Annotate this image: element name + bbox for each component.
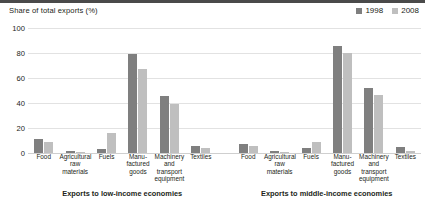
bar-pair (154, 18, 185, 153)
bar-group (59, 18, 90, 153)
x-tick-label: Machineryandtransportequipment (358, 153, 389, 183)
bar-pair (358, 18, 389, 153)
bar-2008 (343, 53, 352, 153)
bar-group (358, 18, 389, 153)
x-tick-label-line: and (154, 160, 185, 167)
x-tick-label: Textiles (185, 153, 216, 160)
bar-pair (122, 18, 153, 153)
x-tick-label: Food (233, 153, 264, 160)
x-tick-label-line: Fuels (91, 153, 122, 160)
bar-group (233, 18, 264, 153)
legend-label-2008: 2008 (401, 6, 419, 15)
bar-group (390, 18, 421, 153)
legend: 1998 2008 (356, 6, 419, 15)
bar-2008 (107, 133, 116, 153)
x-tick-label: Food (28, 153, 59, 160)
bars-layer (28, 18, 421, 153)
bar-1998 (34, 139, 43, 153)
chart-page: Share of total exports (%) 1998 2008 100… (0, 0, 425, 205)
bar-2008 (44, 142, 53, 153)
bar-2008 (138, 69, 147, 153)
x-tick-label: Agriculturalrawmaterials (59, 153, 90, 175)
bar-pair (327, 18, 358, 153)
bar-group (185, 18, 216, 153)
bar-pair (264, 18, 295, 153)
bar-1998 (333, 46, 342, 154)
y-tick-40: 40 (17, 99, 25, 108)
y-tick-20: 20 (17, 124, 25, 133)
x-tick-label-line: Machinery (358, 153, 389, 160)
bar-pair (28, 18, 59, 153)
x-tick-label-line: Manu- (122, 153, 153, 160)
x-tick-label-line: materials (264, 168, 295, 175)
bar-group (264, 18, 295, 153)
x-tick-label-line: goods (327, 168, 358, 175)
x-tick-label-line: raw (264, 160, 295, 167)
bar-2008 (374, 95, 383, 153)
x-tick-label: Agriculturalrawmaterials (264, 153, 295, 175)
bar-1998 (160, 96, 169, 154)
bar-group (327, 18, 358, 153)
x-tick-label-line: Fuels (295, 153, 326, 160)
legend-swatch-2008-icon (392, 8, 398, 14)
x-tick-label-line: Food (233, 153, 264, 160)
x-tick-label-line: materials (59, 168, 90, 175)
bar-1998 (128, 54, 137, 153)
x-tick-label-line: Machinery (154, 153, 185, 160)
y-axis-tick-labels: 100806040200 (0, 18, 28, 153)
bar-group (122, 18, 153, 153)
bar-group (28, 18, 59, 153)
bar-pair (91, 18, 122, 153)
x-tick-label-line: Textiles (390, 153, 421, 160)
bar-2008 (312, 142, 321, 153)
y-axis-title: Share of total exports (%) (9, 6, 98, 15)
bar-2008 (249, 146, 258, 153)
plot-area: 100806040200 (0, 18, 425, 153)
bar-pair (295, 18, 326, 153)
x-tick-label: Machineryandtransportequipment (154, 153, 185, 183)
bar-pair (233, 18, 264, 153)
x-tick-label-line: Agricultural (264, 153, 295, 160)
x-tick-label-line: Agricultural (59, 153, 90, 160)
bar-1998 (239, 144, 248, 153)
bar-1998 (191, 146, 200, 154)
x-tick-label-line: Food (28, 153, 59, 160)
x-tick-label-line: raw (59, 160, 90, 167)
legend-item-1998: 1998 (356, 6, 383, 15)
legend-label-1998: 1998 (365, 6, 383, 15)
group-title-low-income: Exports to low-income economies (28, 189, 217, 198)
x-tick-label: Textiles (390, 153, 421, 160)
x-tick-label-line: equipment (154, 175, 185, 182)
x-tick-label-line: Manu- (327, 153, 358, 160)
top-edge-strip-highlight (0, 3, 425, 4)
y-tick-60: 60 (17, 74, 25, 83)
y-tick-80: 80 (17, 49, 25, 58)
x-tick-label-line: factured (122, 160, 153, 167)
x-tick-label-line: goods (122, 168, 153, 175)
legend-item-2008: 2008 (392, 6, 419, 15)
legend-swatch-1998-icon (356, 8, 362, 14)
x-tick-label-line: equipment (358, 175, 389, 182)
bar-group (295, 18, 326, 153)
x-tick-label-line: factured (327, 160, 358, 167)
group-title-middle-income: Exports to middle-income economies (233, 189, 422, 198)
x-tick-label-line: transport (358, 168, 389, 175)
x-axis-category-labels: FoodAgriculturalrawmaterialsFuelsManu-fa… (28, 153, 421, 187)
bar-pair (390, 18, 421, 153)
bar-group (154, 18, 185, 153)
bar-pair (59, 18, 90, 153)
bar-group (91, 18, 122, 153)
bar-pair (185, 18, 216, 153)
y-tick-0: 0 (21, 149, 25, 158)
x-tick-label: Manu-facturedgoods (122, 153, 153, 175)
x-tick-label-line: and (358, 160, 389, 167)
x-tick-label-line: Textiles (185, 153, 216, 160)
x-tick-label: Manu-facturedgoods (327, 153, 358, 175)
bar-2008 (170, 104, 179, 153)
x-tick-label: Fuels (295, 153, 326, 160)
bar-1998 (364, 88, 373, 153)
x-tick-label-line: transport (154, 168, 185, 175)
y-tick-100: 100 (12, 24, 25, 33)
x-tick-label: Fuels (91, 153, 122, 160)
